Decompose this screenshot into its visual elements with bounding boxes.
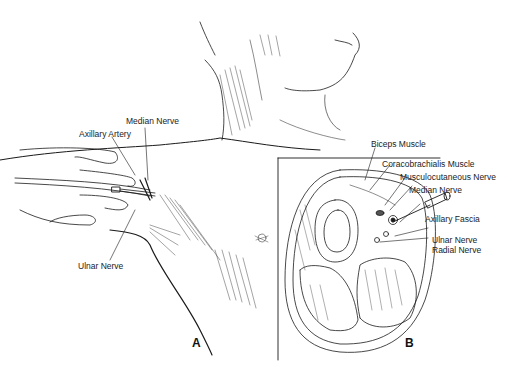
arm-and-hands-drawing — [15, 148, 268, 355]
label-radial-nerve: Radial Nerve — [432, 246, 481, 255]
panel-letter-b: B — [405, 337, 414, 349]
label-median-nerve-a: Median Nerve — [126, 117, 179, 126]
label-biceps-muscle: Biceps Muscle — [371, 140, 426, 149]
label-musculocutaneous-nerve: Musculocutaneous Nerve — [400, 173, 496, 182]
label-ulnar-nerve-a: Ulnar Nerve — [78, 262, 123, 271]
label-coracobrachialis-muscle: Coracobrachialis Muscle — [382, 160, 475, 169]
label-median-nerve-b: Median Nerve — [409, 186, 462, 195]
label-ulnar-nerve-b: Ulnar Nerve — [432, 236, 477, 245]
label-axillary-fascia: Axillary Fascia — [425, 215, 480, 224]
label-axillary-artery: Axillary Artery — [79, 130, 131, 139]
neck-drawing — [0, 22, 359, 160]
arm-cross-section — [285, 170, 435, 353]
panel-letter-a: A — [192, 337, 201, 349]
